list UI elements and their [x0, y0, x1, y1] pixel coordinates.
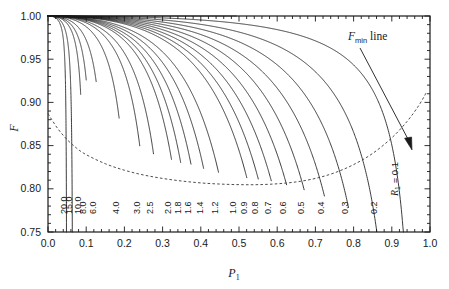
curve-label-1.0: 1.0 — [228, 201, 238, 214]
r1-annotation-italic: R — [389, 190, 400, 197]
y-axis-title: F — [7, 124, 21, 133]
curve-label-2.5: 2.5 — [145, 201, 155, 214]
curve-label-0.2: 0.2 — [369, 201, 379, 214]
x-tick-label: 0.5 — [232, 237, 247, 249]
x-axis-title-subscript: 1 — [236, 273, 240, 282]
r1-annotation-text: R1 = 0.1 — [389, 162, 401, 197]
x-tick-label: 0.9 — [384, 237, 399, 249]
x-tick-label: 0.2 — [117, 237, 132, 249]
y-axis-title-text: F — [7, 124, 21, 133]
curve-label-6.0: 6.0 — [88, 201, 98, 214]
curve-label-4.0: 4.0 — [111, 201, 121, 214]
x-tick-label: 0.7 — [308, 237, 323, 249]
x-tick-label: 0.0 — [41, 237, 56, 249]
curve-label-0.8: 0.8 — [250, 201, 260, 214]
curve-label-0.7: 0.7 — [263, 201, 273, 214]
curve-label-0.3: 0.3 — [340, 201, 350, 214]
chart-canvas: 0.00.10.20.30.40.50.60.70.80.91.0 0.750.… — [0, 0, 449, 289]
curve-label-1.2: 1.2 — [210, 201, 220, 214]
fmin-annotation-subscript: min — [355, 36, 367, 45]
x-axis-title: P1 — [227, 266, 239, 282]
curve-label-0.9: 0.9 — [239, 201, 249, 214]
lmtd-correction-factor-chart: 0.00.10.20.30.40.50.60.70.80.91.0 0.750.… — [0, 0, 449, 289]
y-tick-label: 0.95 — [21, 53, 42, 65]
x-axis-tick-labels: 0.00.10.20.30.40.50.60.70.80.91.0 — [41, 237, 438, 249]
curve-label-1.8: 1.8 — [173, 201, 183, 214]
curve-label-3.0: 3.0 — [132, 201, 142, 214]
y-tick-label: 0.75 — [21, 226, 42, 238]
y-tick-label: 0.85 — [21, 139, 42, 151]
r1-annotation-plain: = 0.1 — [389, 162, 400, 186]
fmin-annotation-plain: line — [367, 30, 387, 42]
curve-label-1.4: 1.4 — [195, 201, 205, 214]
curve-label-1.6: 1.6 — [183, 201, 193, 214]
x-tick-label: 1.0 — [423, 237, 438, 249]
x-tick-label: 0.4 — [193, 237, 208, 249]
x-tick-label: 0.3 — [155, 237, 170, 249]
y-tick-label: 1.00 — [21, 10, 42, 22]
curve-label-0.5: 0.5 — [296, 201, 306, 214]
x-tick-label: 0.1 — [79, 237, 94, 249]
x-tick-label: 0.6 — [270, 237, 285, 249]
y-tick-label: 0.90 — [21, 96, 42, 108]
x-axis-title-text: P1 — [227, 266, 239, 282]
curve-label-0.4: 0.4 — [316, 201, 326, 214]
plot-area-background — [48, 16, 430, 232]
y-tick-label: 0.80 — [21, 182, 42, 194]
y-axis-tick-labels: 0.750.800.850.900.951.00 — [21, 10, 42, 238]
x-tick-label: 0.8 — [346, 237, 361, 249]
curve-label-0.6: 0.6 — [278, 201, 288, 214]
r1-annotation: R1 = 0.1 — [389, 162, 401, 197]
curve-label-8.0: 8.0 — [78, 201, 88, 214]
